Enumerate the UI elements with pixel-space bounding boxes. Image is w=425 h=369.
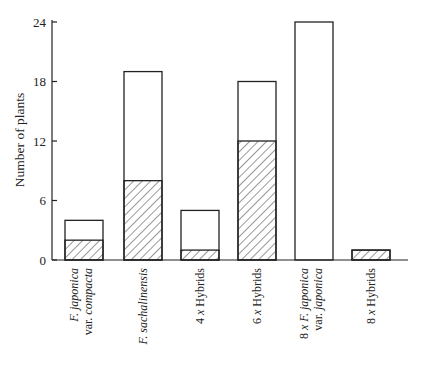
y-axis-title: Number of plants [12, 93, 27, 187]
category-label: F. sachalinensis [136, 268, 150, 346]
bar-group [238, 82, 276, 261]
category-labels: F. japonicavar. compactaF. sachalinensis… [67, 268, 378, 346]
y-tick-label: 18 [33, 74, 46, 89]
bar-chart: 06121824 F. japonicavar. compactaF. sach… [0, 0, 425, 369]
bars [65, 22, 390, 260]
bar-group [65, 220, 103, 260]
bar-hatched-segment [181, 250, 219, 260]
bar-group [295, 22, 333, 260]
category-label: 8 x Hybrids [364, 268, 378, 324]
bar-open-segment [295, 22, 333, 260]
y-tick-label: 6 [40, 193, 47, 208]
category-label: 6 x Hybrids [250, 268, 264, 324]
y-tick-label: 12 [33, 134, 46, 149]
category-label: F. japonica [67, 268, 81, 323]
bar-hatched-segment [124, 181, 162, 260]
y-tick-label: 0 [40, 253, 47, 268]
y-axis: 06121824 [33, 15, 57, 268]
bar-hatched-segment [65, 240, 103, 260]
bar-group [352, 250, 390, 260]
category-label: var. compacta [81, 268, 95, 335]
bar-hatched-segment [238, 141, 276, 260]
category-label: 8 x F. japonica [297, 268, 311, 339]
bar-group [181, 210, 219, 260]
y-tick-label: 24 [33, 15, 47, 30]
bar-group [124, 72, 162, 260]
bar-hatched-segment [352, 250, 390, 260]
category-label: 4 x Hybrids [193, 268, 207, 324]
category-label: var. japonica [311, 268, 325, 331]
